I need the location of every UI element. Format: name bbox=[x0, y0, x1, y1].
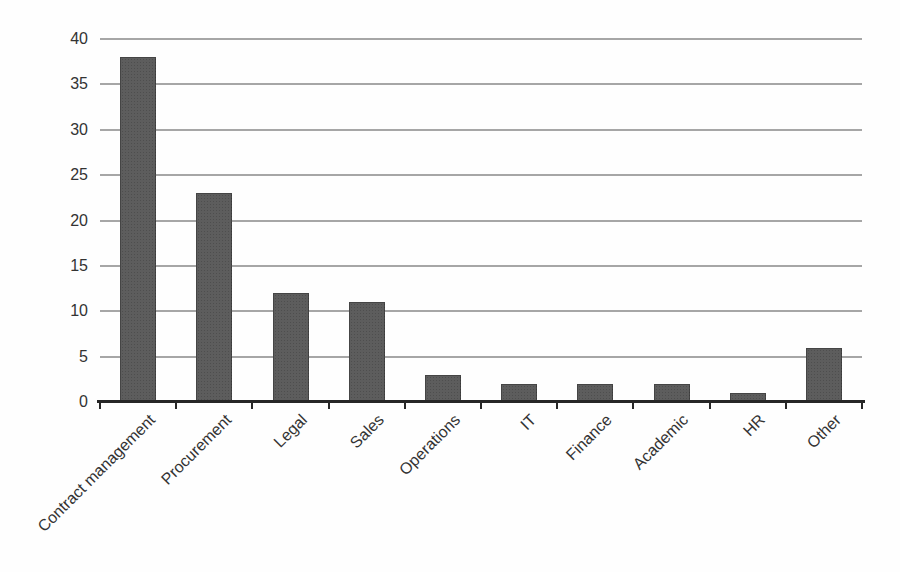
y-tick-label-30: 30 bbox=[0, 121, 94, 139]
x-tick-label-sales: Sales bbox=[346, 411, 387, 452]
x-tick-label-procurement: Procurement bbox=[158, 411, 235, 488]
plot-area bbox=[100, 39, 862, 402]
bar-procurement bbox=[196, 193, 232, 402]
x-axis-tick bbox=[861, 403, 863, 409]
y-tick-label-35: 35 bbox=[0, 75, 94, 93]
x-axis-tick bbox=[175, 403, 177, 409]
x-axis-tick bbox=[632, 403, 634, 409]
y-tick-label-0: 0 bbox=[0, 393, 94, 411]
x-tick-label-hr: HR bbox=[739, 411, 768, 440]
x-axis-tick bbox=[404, 403, 406, 409]
x-axis-tick bbox=[99, 403, 101, 409]
y-tick-label-10: 10 bbox=[0, 302, 94, 320]
gridline-30 bbox=[100, 129, 862, 131]
y-tick-label-25: 25 bbox=[0, 166, 94, 184]
x-axis-tick bbox=[785, 403, 787, 409]
x-tick-label-legal: Legal bbox=[271, 411, 311, 451]
x-tick-label-finance: Finance bbox=[563, 411, 616, 464]
y-tick-label-20: 20 bbox=[0, 212, 94, 230]
x-axis-tick bbox=[556, 403, 558, 409]
bar-chart-figure: 0510152025303540 Contract managementProc… bbox=[0, 0, 900, 572]
gridline-25 bbox=[100, 174, 862, 176]
bar-operations bbox=[425, 375, 461, 402]
gridline-35 bbox=[100, 83, 862, 85]
bar-other bbox=[806, 348, 842, 402]
x-axis-tick bbox=[328, 403, 330, 409]
x-axis-tick bbox=[709, 403, 711, 409]
y-tick-label-5: 5 bbox=[0, 348, 94, 366]
bar-legal bbox=[273, 293, 309, 402]
x-tick-label-it: IT bbox=[517, 411, 540, 434]
gridline-40 bbox=[100, 38, 862, 40]
bar-sales bbox=[349, 302, 385, 402]
x-tick-label-contract-management: Contract management bbox=[34, 411, 159, 536]
bar-contract-management bbox=[120, 57, 156, 402]
x-axis-tick bbox=[251, 403, 253, 409]
x-axis-tick bbox=[480, 403, 482, 409]
x-tick-label-academic: Academic bbox=[630, 411, 692, 473]
y-axis-labels: 0510152025303540 bbox=[0, 39, 94, 402]
y-tick-label-40: 40 bbox=[0, 30, 94, 48]
x-tick-label-other: Other bbox=[804, 411, 845, 452]
x-tick-label-operations: Operations bbox=[396, 411, 464, 479]
y-tick-label-15: 15 bbox=[0, 257, 94, 275]
